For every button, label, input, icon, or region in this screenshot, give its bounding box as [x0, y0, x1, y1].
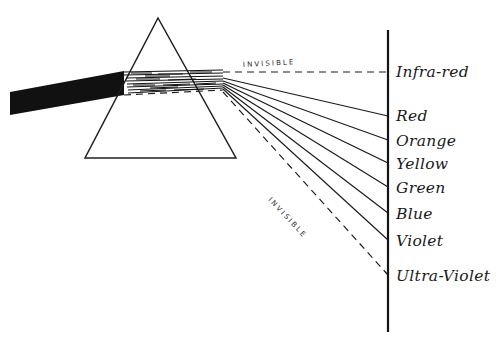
- label-orange: Orange: [396, 132, 456, 150]
- incident-beam-group: [10, 71, 124, 115]
- label-ultra-violet: Ultra-Violet: [396, 267, 491, 285]
- invisible-annotations: INVISIBLE INVISIBLE: [243, 58, 309, 240]
- ray-violet: [223, 89, 388, 240]
- ray-ultra-violet: [223, 92, 388, 275]
- invisible-label-lower: INVISIBLE: [267, 196, 309, 240]
- invisible-label-upper: INVISIBLE: [243, 58, 296, 69]
- prism-spectrum-figure: INVISIBLE INVISIBLE Infra-red Red Orange…: [0, 0, 504, 343]
- ray-yellow: [223, 83, 388, 163]
- ray-blue: [223, 87, 388, 213]
- diagram-canvas: INVISIBLE INVISIBLE Infra-red Red Orange…: [0, 0, 504, 343]
- label-infra-red: Infra-red: [395, 63, 469, 81]
- band-stripe: [126, 76, 223, 78]
- label-violet: Violet: [396, 232, 444, 250]
- label-red: Red: [395, 107, 428, 125]
- label-blue: Blue: [395, 205, 433, 223]
- internal-dispersion-band: [124, 70, 223, 95]
- label-green: Green: [396, 179, 446, 197]
- emergent-rays-group: [223, 72, 388, 275]
- spectrum-label-group: Infra-red Red Orange Yellow Green Blue V…: [395, 63, 491, 285]
- label-yellow: Yellow: [396, 155, 448, 173]
- ray-green: [223, 85, 388, 187]
- white-light-beam: [10, 71, 124, 115]
